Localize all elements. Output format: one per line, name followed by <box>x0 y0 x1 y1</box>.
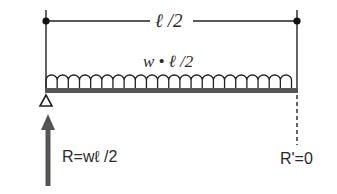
load-label: w • ℓ /2 <box>143 52 193 72</box>
right-dimension-dot-icon <box>293 17 300 24</box>
right-reaction-label: R'=0 <box>280 150 313 168</box>
left-reaction-label: R=wℓ /2 <box>62 148 117 166</box>
left-dimension-dot-icon <box>42 17 49 24</box>
pin-support-icon <box>40 95 52 106</box>
beam <box>45 88 298 93</box>
reaction-arrow-icon <box>41 114 55 186</box>
distributed-load <box>46 75 292 88</box>
span-label: ℓ /2 <box>155 10 182 32</box>
